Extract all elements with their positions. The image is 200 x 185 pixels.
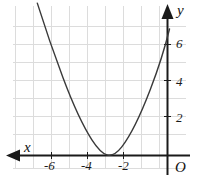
y-tick-label-4: 4 [176,75,183,88]
origin-label: O [175,160,186,175]
y-axis-label: y [177,3,184,18]
parabola-curve [37,3,169,155]
y-tick-label-6: 6 [176,37,183,50]
grid-horizontal-lines [13,27,186,169]
x-axis-arrow-icon [6,150,20,162]
x-tick-label--6: -6 [44,159,55,172]
y-tick-label-2: 2 [176,111,183,124]
x-axis-label: x [24,140,31,155]
grid-vertical-lines [16,6,160,168]
x-tick-label--2: -2 [118,159,129,172]
y-axis [162,4,174,175]
graph-canvas [0,0,200,185]
y-axis-arrow-icon [162,4,174,19]
x-tick-label--4: -4 [81,159,92,172]
